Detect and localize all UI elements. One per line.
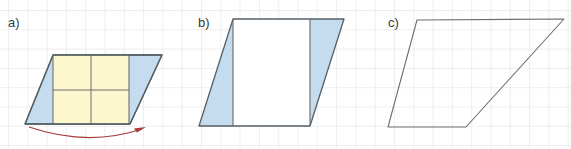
panel-b-figure bbox=[199, 19, 344, 126]
panel-label-c: c) bbox=[388, 16, 399, 29]
shapes-layer bbox=[0, 0, 571, 149]
figure-root: a) b) c) bbox=[0, 0, 571, 149]
panel-c-figure bbox=[388, 19, 564, 127]
panel-a-move-arrow bbox=[29, 127, 142, 138]
panel-label-b: b) bbox=[198, 16, 210, 29]
arrow-head-icon bbox=[134, 127, 146, 133]
panel-c-parallelogram bbox=[388, 19, 564, 127]
panel-label-a: a) bbox=[8, 16, 20, 29]
panel-a-figure bbox=[25, 55, 162, 138]
